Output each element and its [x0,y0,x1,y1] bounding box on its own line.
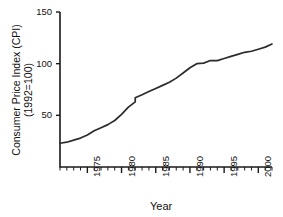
x-tick-label: 1985 [160,156,171,177]
y-axis-title-line1: Consumer Price Index (CPI) [10,10,22,170]
y-tick-label: 150 [26,6,52,17]
x-tick-label: 1990 [194,156,205,177]
x-axis-title: Year [150,200,172,212]
y-axis-title-line2: (1992=100) [22,10,34,170]
y-tick-label: 100 [26,58,52,69]
axis-spines [60,12,272,167]
x-tick-label: 1995 [228,156,239,177]
cpi-line-chart: Consumer Price Index (CPI) (1992=100) Ye… [0,0,283,217]
x-tick-label: 1980 [126,156,137,177]
x-tick-label: 1975 [91,156,102,177]
cpi-data-line [60,44,272,143]
y-tick-label: 50 [26,109,52,120]
y-axis-title: Consumer Price Index (CPI) (1992=100) [10,10,34,170]
x-tick-label: 2000 [262,156,273,177]
